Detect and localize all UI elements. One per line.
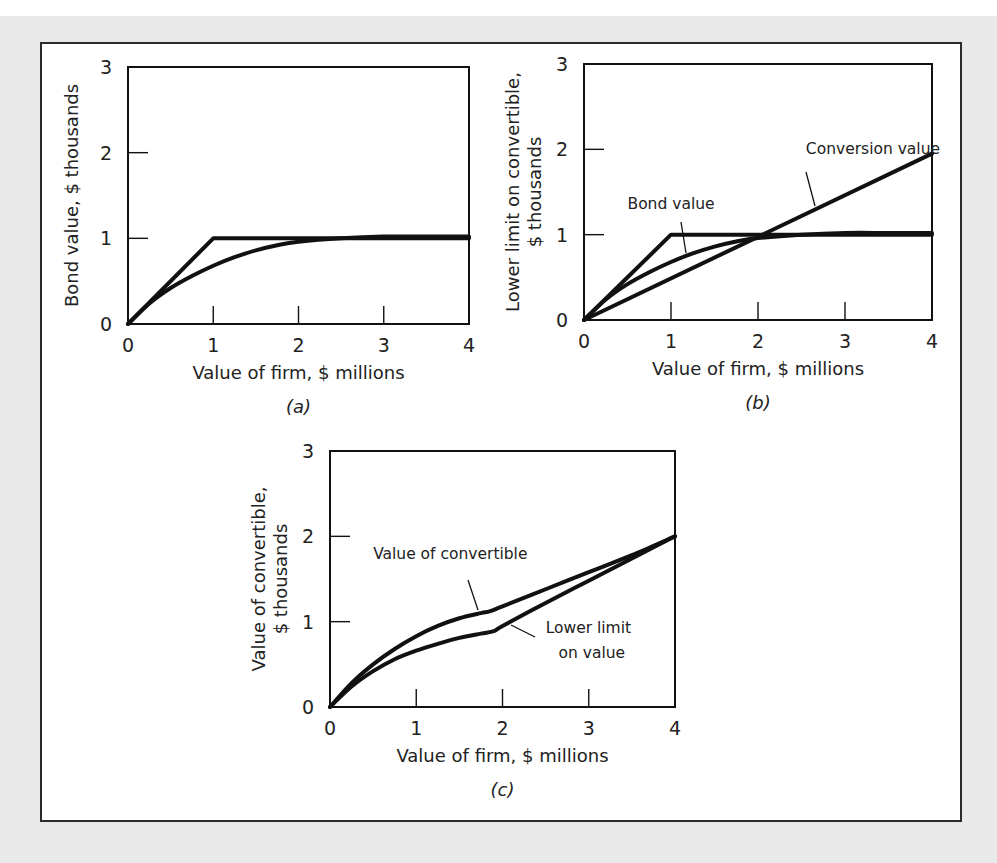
y-tick-label: 2 <box>100 142 112 164</box>
x-tick-label: 2 <box>496 717 508 739</box>
panel-label-a: (a) <box>286 396 311 417</box>
x-axis-label-a: Value of firm, $ millions <box>192 362 404 383</box>
chart-panel-a: 012340123 Value of firm, $ millions Bond… <box>61 56 475 417</box>
annotation-label: Value of convertible <box>373 545 527 563</box>
y-axis-label-b-line2: $ thousands <box>524 137 545 248</box>
x-tick-label: 4 <box>669 717 681 739</box>
x-tick-label: 3 <box>839 330 851 352</box>
panel-label-c: (c) <box>491 779 515 800</box>
y-tick-label: 0 <box>100 313 112 335</box>
y-axis-label-c-line1: Value of convertible, <box>248 487 269 672</box>
y-axis-label-c-line2: $ thousands <box>270 524 291 635</box>
plot-area-c <box>330 451 675 707</box>
y-axis-label-b-line1: Lower limit on convertible, <box>502 72 523 312</box>
annotation-label: Bond value <box>628 195 715 213</box>
y-tick-label: 1 <box>556 224 568 246</box>
x-tick-label: 1 <box>665 330 677 352</box>
x-tick-label: 0 <box>578 330 590 352</box>
x-tick-label: 2 <box>292 334 304 356</box>
x-tick-label: 4 <box>926 330 938 352</box>
x-tick-label: 0 <box>122 334 134 356</box>
y-tick-label: 0 <box>302 696 314 718</box>
x-tick-label: 1 <box>207 334 219 356</box>
x-tick-label: 3 <box>583 717 595 739</box>
x-tick-label: 0 <box>324 717 336 739</box>
chart-panel-c: 012340123 Value of convertibleLower limi… <box>248 440 681 800</box>
y-tick-label: 2 <box>302 525 314 547</box>
y-tick-label: 3 <box>100 56 112 78</box>
plot-area-b <box>584 64 932 320</box>
figure-canvas: 012340123 Value of firm, $ millions Bond… <box>0 0 997 863</box>
y-tick-label: 3 <box>302 440 314 462</box>
y-tick-label: 1 <box>100 227 112 249</box>
x-axis-label-b: Value of firm, $ millions <box>652 358 864 379</box>
plot-area-a <box>128 67 469 324</box>
x-tick-label: 2 <box>752 330 764 352</box>
annotation-label: Lower limit <box>546 619 631 637</box>
x-tick-label: 1 <box>410 717 422 739</box>
y-tick-label: 3 <box>556 53 568 75</box>
y-tick-label: 2 <box>556 138 568 160</box>
x-tick-label: 3 <box>378 334 390 356</box>
y-axis-label-a: Bond value, $ thousands <box>61 84 82 307</box>
y-tick-label: 1 <box>302 611 314 633</box>
annotation-label: Conversion value <box>806 140 940 158</box>
x-tick-label: 4 <box>463 334 475 356</box>
x-axis-label-c: Value of firm, $ millions <box>396 745 608 766</box>
y-tick-label: 0 <box>556 309 568 331</box>
chart-panel-b: 012340123 Conversion valueBond value Val… <box>502 53 940 413</box>
panel-label-b: (b) <box>745 392 770 413</box>
annotation-label: on value <box>559 644 626 662</box>
